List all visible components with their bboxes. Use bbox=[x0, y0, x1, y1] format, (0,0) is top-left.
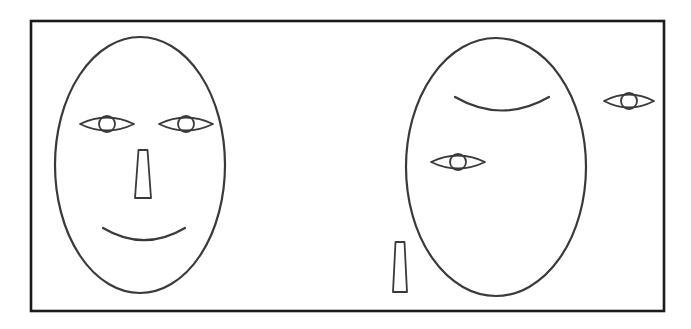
outer-frame-border bbox=[31, 21, 664, 311]
figure-canvas bbox=[0, 0, 691, 329]
two-faces-figure bbox=[0, 0, 691, 329]
